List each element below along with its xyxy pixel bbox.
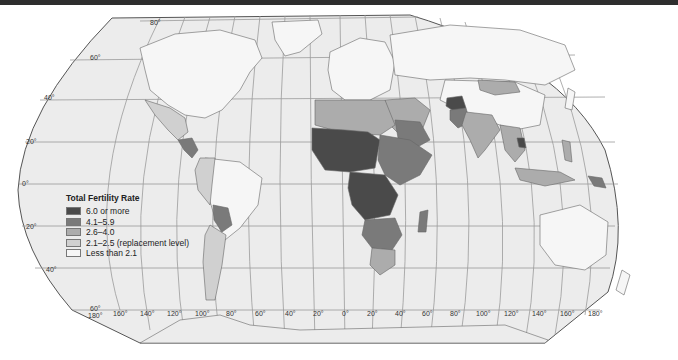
legend-item-4-1-to-5-9: 4.1–5.9 [66, 217, 189, 228]
map-svg: 80° 60° 40° 20° 0° 20° 40° 60° 180° 160°… [0, 0, 678, 360]
legend-item-less-than-2-1: Less than 2.1 [66, 248, 189, 259]
legend-swatch [66, 249, 81, 257]
svg-text:40°: 40° [285, 310, 296, 317]
svg-text:60°: 60° [90, 54, 101, 61]
legend-label: 4.1–5.9 [86, 217, 114, 227]
legend-swatch [66, 228, 81, 236]
svg-text:160°: 160° [113, 310, 128, 317]
legend-swatch [66, 207, 81, 215]
svg-text:80°: 80° [150, 19, 161, 26]
svg-text:60°: 60° [422, 310, 433, 317]
svg-text:20°: 20° [26, 223, 37, 230]
world-fertility-map: 80° 60° 40° 20° 0° 20° 40° 60° 180° 160°… [0, 0, 678, 360]
legend-label: 2.1–2.5 (replacement level) [86, 238, 189, 248]
legend-label: 2.6–4.0 [86, 227, 114, 237]
svg-text:120°: 120° [504, 310, 519, 317]
svg-text:20°: 20° [26, 138, 37, 145]
new-zealand [616, 270, 630, 295]
svg-text:80°: 80° [226, 310, 237, 317]
svg-text:0°: 0° [22, 180, 29, 187]
legend-item-replacement-level: 2.1–2.5 (replacement level) [66, 238, 189, 249]
legend-item-2-6-to-4-0: 2.6–4.0 [66, 227, 189, 238]
legend: Total Fertility Rate 6.0 or more 4.1–5.9… [66, 193, 189, 259]
svg-text:40°: 40° [395, 310, 406, 317]
svg-text:140°: 140° [532, 310, 547, 317]
svg-text:120°: 120° [167, 310, 182, 317]
svg-text:60°: 60° [255, 310, 266, 317]
legend-swatch [66, 239, 81, 247]
west-africa [312, 128, 380, 172]
legend-swatch [66, 218, 81, 226]
legend-item-6-plus: 6.0 or more [66, 206, 189, 217]
svg-text:40°: 40° [46, 266, 57, 273]
legend-label: Less than 2.1 [86, 248, 137, 258]
svg-text:160°: 160° [560, 310, 575, 317]
svg-text:100°: 100° [476, 310, 491, 317]
svg-text:20°: 20° [367, 310, 378, 317]
svg-text:0°: 0° [342, 310, 349, 317]
svg-text:180°: 180° [588, 310, 603, 317]
svg-text:100°: 100° [195, 310, 210, 317]
svg-text:140°: 140° [140, 310, 155, 317]
svg-text:40°: 40° [44, 94, 55, 101]
russia-north-asia [390, 25, 575, 85]
svg-text:80°: 80° [450, 310, 461, 317]
svg-text:180°: 180° [88, 312, 103, 319]
legend-label: 6.0 or more [86, 206, 129, 216]
svg-text:20°: 20° [313, 310, 324, 317]
legend-title: Total Fertility Rate [66, 193, 189, 203]
svg-text:60°: 60° [90, 305, 101, 312]
